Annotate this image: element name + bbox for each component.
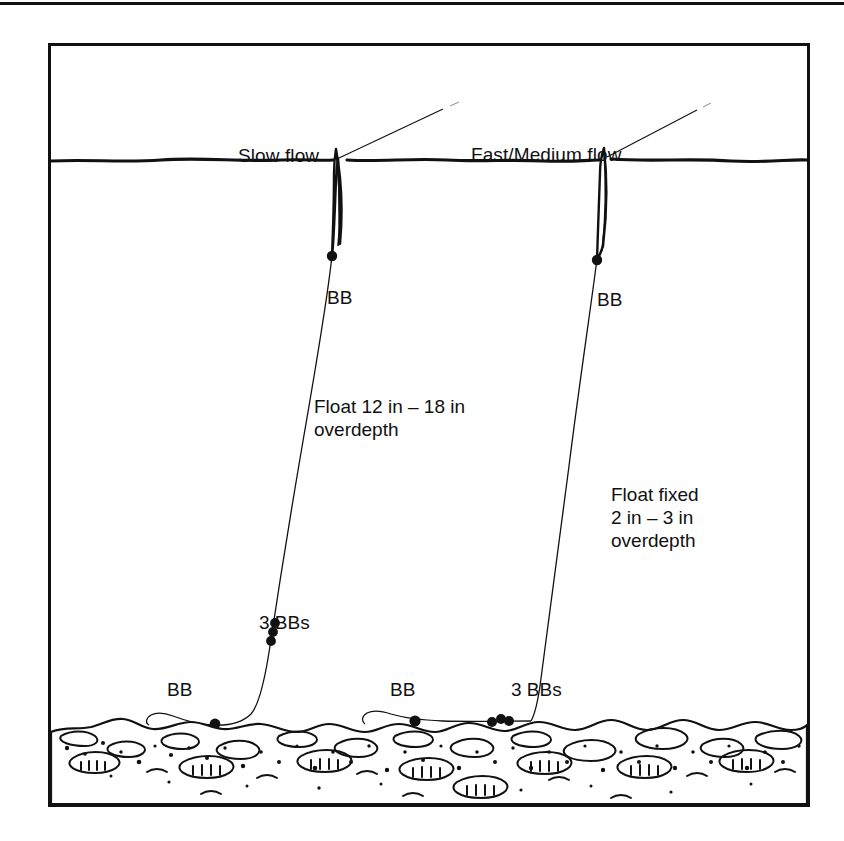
label-bb-left-float: BB bbox=[327, 286, 352, 309]
label-slow-flow: Slow flow bbox=[238, 144, 319, 167]
leader-line-slow-flow bbox=[339, 102, 459, 158]
shot-3bbs-right-bed bbox=[487, 714, 514, 727]
float-left bbox=[332, 149, 341, 255]
water-surface-line bbox=[51, 159, 807, 162]
line-left bbox=[211, 255, 332, 725]
figure-page: Slow flow Fast/Medium flow BB BB Float 1… bbox=[0, 0, 844, 841]
page-top-rule bbox=[0, 2, 844, 5]
rig-slow-flow bbox=[147, 149, 342, 729]
leader-line-fast-flow bbox=[607, 103, 711, 157]
label-3bbs-left-line: 3 BBs bbox=[259, 611, 310, 634]
shot-bb-right-float bbox=[592, 255, 602, 265]
riverbed bbox=[51, 719, 807, 804]
label-float-left-overdepth: Float 12 in – 18 in overdepth bbox=[314, 395, 465, 441]
label-3bbs-bed-right: 3 BBs bbox=[511, 678, 562, 701]
label-float-right-overdepth: Float fixed 2 in – 3 in overdepth bbox=[611, 483, 699, 553]
line-right bbox=[531, 259, 597, 721]
label-fast-medium-flow: Fast/Medium flow bbox=[471, 143, 621, 166]
label-bb-bed-left: BB bbox=[167, 678, 192, 701]
label-bb-right-float: BB bbox=[597, 288, 622, 311]
shot-bb-left-float bbox=[327, 251, 337, 261]
label-bb-bed-mid: BB bbox=[390, 678, 415, 701]
figure-frame: Slow flow Fast/Medium flow BB BB Float 1… bbox=[48, 43, 810, 807]
